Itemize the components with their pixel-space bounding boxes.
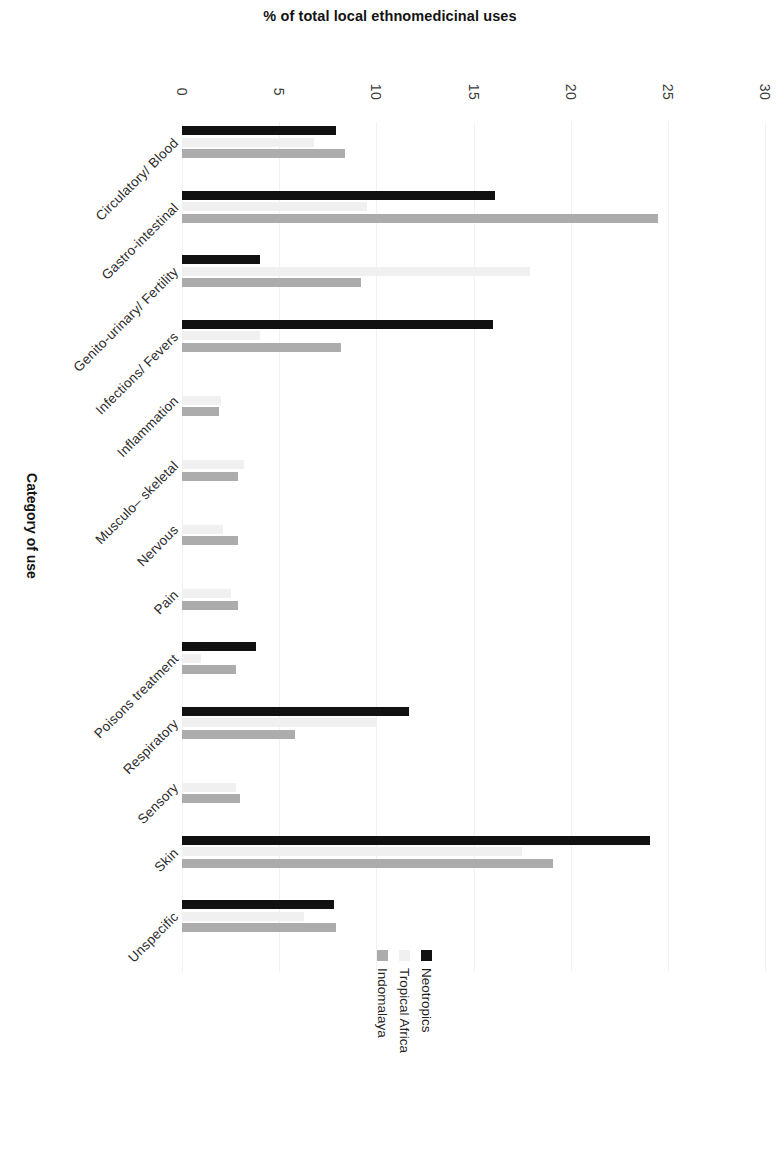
x-tick-label-30: 30 (757, 72, 773, 112)
x-tick-label-20: 20 (563, 72, 579, 112)
bar-indomalaya-inflammation[interactable] (182, 407, 219, 416)
bar-group (182, 900, 765, 932)
bar-indomalaya-poisons-treatment[interactable] (182, 665, 236, 674)
bar-group (182, 320, 765, 352)
legend-item-tropical-africa[interactable]: Tropical Africa (397, 950, 412, 1053)
black-square-icon (421, 950, 432, 961)
bar-tropical-africa-poisons-treatment[interactable] (182, 654, 201, 663)
legend-item-neotropics[interactable]: Neotropics (419, 950, 434, 1033)
bar-neotropics-skin[interactable] (182, 836, 650, 845)
bar-tropical-africa-unspecific[interactable] (182, 912, 304, 921)
bar-indomalaya-infections-fevers[interactable] (182, 343, 341, 352)
bar-tropical-africa-gastro-intestinal[interactable] (182, 202, 367, 211)
bar-group (182, 771, 765, 803)
y-axis-title: Category of use (24, 456, 40, 596)
grid-line (765, 122, 766, 972)
bar-group (182, 191, 765, 223)
bar-group (182, 707, 765, 739)
bar-group (182, 255, 765, 287)
category-label-unspecific: Unspecific (0, 909, 181, 1158)
light-gray-square-icon (399, 950, 410, 961)
bar-indomalaya-respiratory[interactable] (182, 730, 295, 739)
bar-indomalaya-circulatory-blood[interactable] (182, 149, 345, 158)
medium-gray-square-icon (377, 950, 388, 961)
bar-tropical-africa-inflammation[interactable] (182, 396, 221, 405)
x-tick-label-10: 10 (368, 72, 384, 112)
bar-group (182, 642, 765, 674)
bar-indomalaya-skin[interactable] (182, 859, 553, 868)
chart-title: % of total local ethnomedicinal uses (0, 8, 780, 24)
legend-label: Indomalaya (375, 968, 390, 1038)
bar-tropical-africa-infections-fevers[interactable] (182, 331, 260, 340)
bar-indomalaya-gastro-intestinal[interactable] (182, 214, 658, 223)
bar-group (182, 449, 765, 481)
bar-indomalaya-unspecific[interactable] (182, 923, 336, 932)
bar-neotropics-gastro-intestinal[interactable] (182, 191, 495, 200)
bar-neotropics-poisons-treatment[interactable] (182, 642, 256, 651)
bar-neotropics-circulatory-blood[interactable] (182, 126, 336, 135)
bar-neotropics-genito-urinary-fertility[interactable] (182, 255, 260, 264)
bar-tropical-africa-respiratory[interactable] (182, 718, 376, 727)
bar-neotropics-infections-fevers[interactable] (182, 320, 493, 329)
bar-group (182, 513, 765, 545)
bar-indomalaya-pain[interactable] (182, 601, 238, 610)
bar-neotropics-unspecific[interactable] (182, 900, 334, 909)
bar-group (182, 836, 765, 868)
legend-label: Neotropics (419, 968, 434, 1033)
x-tick-label-25: 25 (660, 72, 676, 112)
bar-tropical-africa-pain[interactable] (182, 589, 231, 598)
bar-tropical-africa-skin[interactable] (182, 847, 522, 856)
bar-tropical-africa-nervous[interactable] (182, 525, 223, 534)
legend-item-indomalaya[interactable]: Indomalaya (375, 950, 390, 1038)
bar-indomalaya-nervous[interactable] (182, 536, 238, 545)
bar-tropical-africa-genito-urinary-fertility[interactable] (182, 267, 530, 276)
legend-label: Tropical Africa (397, 968, 412, 1053)
plot-area (182, 122, 765, 972)
bar-tropical-africa-sensory[interactable] (182, 783, 236, 792)
x-tick-label-0: 0 (174, 72, 190, 112)
bar-indomalaya-genito-urinary-fertility[interactable] (182, 278, 361, 287)
bar-neotropics-respiratory[interactable] (182, 707, 409, 716)
x-tick-label-5: 5 (271, 72, 287, 112)
chart-legend: NeotropicsTropical AfricaIndomalaya (314, 950, 434, 1158)
bar-indomalaya-musculo-skeletal[interactable] (182, 472, 238, 481)
bar-group (182, 578, 765, 610)
bar-group (182, 384, 765, 416)
bar-tropical-africa-musculo-skeletal[interactable] (182, 460, 244, 469)
bar-tropical-africa-circulatory-blood[interactable] (182, 138, 314, 147)
bar-chart-figure: % of total local ethnomedicinal uses 051… (0, 0, 780, 1158)
bar-group (182, 126, 765, 158)
bar-indomalaya-sensory[interactable] (182, 794, 240, 803)
x-tick-label-15: 15 (466, 72, 482, 112)
